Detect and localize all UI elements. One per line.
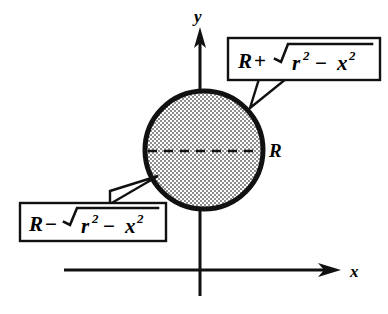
lower-callout[interactable]: R − r 2 − x 2 (20, 176, 166, 241)
y-axis-label: y (192, 7, 202, 26)
upper-lead: R (237, 49, 252, 73)
figure-canvas: y x R R + r (0, 0, 388, 314)
upper-radicand-base-exponent: 2 (302, 48, 310, 63)
upper-operator: + (254, 49, 266, 73)
shaded-circle (145, 91, 263, 209)
upper-radicand-base: r (292, 51, 301, 75)
upper-callout[interactable]: R + r 2 − x 2 (228, 38, 380, 108)
lower-callout-tail (110, 176, 158, 204)
x-axis-label: x (349, 262, 359, 281)
lower-radicand-base-exponent: 2 (91, 211, 99, 226)
upper-radicand-term: x (336, 51, 348, 75)
upper-radicand-term-exponent: 2 (348, 48, 356, 63)
lower-radicand-term: x (124, 214, 136, 238)
lower-radicand-base: r (81, 214, 90, 238)
lower-operator: − (45, 212, 57, 236)
lower-radicand-operator: − (103, 214, 115, 238)
upper-radicand-operator: − (315, 51, 327, 75)
diagram-svg: y x R R + r (0, 0, 388, 314)
upper-callout-tail (250, 79, 286, 108)
radius-label: R (268, 140, 282, 161)
lower-radicand-term-exponent: 2 (136, 211, 144, 226)
lower-lead: R (28, 212, 43, 236)
